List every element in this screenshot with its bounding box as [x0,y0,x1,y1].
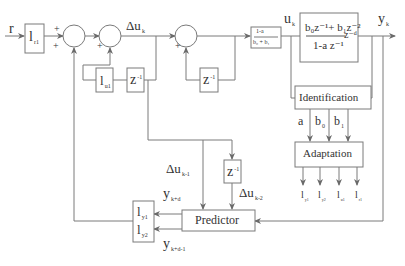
gain-numerator: 1-a [256,28,264,34]
lu1-label: lu1 [100,74,111,89]
adapt-out-lu1: lu1 [337,190,345,202]
delta-u-k2-label: Δuk-2 [239,186,263,201]
adapt-out-ly1: ly1 [301,190,309,202]
identification-label: Identification [299,92,358,103]
y-kd-label: yk+d [163,187,180,202]
z-delay-label-2: z-1 [203,73,215,87]
adapt-out-ly2: ly2 [318,190,326,202]
y-k-label: yk [378,12,389,27]
delta-u-k1-label: Δuk-1 [166,162,190,177]
y-kd1-label: yk+d-1 [163,237,185,252]
sum3-sign-left: + [175,41,181,51]
a-label: a [298,115,303,127]
sum2-sign-left: + [97,41,103,51]
lr1-label: lr1 [29,30,39,45]
predictor-label: Predictor [195,214,239,226]
ly2-label: ly2 [137,223,148,238]
summing-junction-1 [63,25,85,47]
z-delay-label-1: z-1 [130,73,142,87]
delta-u-k-label: Δuk [126,19,145,34]
b1-label: b1 [334,115,344,129]
r-label: r [9,22,14,36]
u-k-label: uk [284,12,295,27]
adaptation-label: Adaptation [303,148,352,159]
adapt-out-lr1: lr1 [355,190,362,202]
b0-label: b0 [315,115,325,129]
plant-delay: z⁻ᵈ [344,30,357,40]
gain-denominator: b₀ + b₁ [253,39,270,45]
z-delay-label-3: z-1 [227,165,239,179]
control-block-diagram: r lr1 + + + + Δuk lu1 z-1 z-1 1-a b₀ + b… [0,0,405,266]
plant-denominator: 1-a z⁻¹ [313,40,344,51]
ly1-label: ly1 [137,205,148,220]
sum1-sign-left: + [53,41,59,51]
sum1-sign-top: + [54,24,60,34]
